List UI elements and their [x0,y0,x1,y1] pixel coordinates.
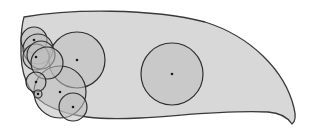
vesicle-center-dot [76,59,79,62]
vesicle-center-dot [72,106,75,109]
vesicle-center-dot [35,56,38,59]
vesicle-center-dot [37,93,40,96]
vesicle-center-dot [35,81,38,84]
vesicle-center-dot [59,91,62,94]
vesicle-center-dot [33,39,36,42]
cell-diagram [0,0,315,132]
vesicle-center-dot [171,73,174,76]
